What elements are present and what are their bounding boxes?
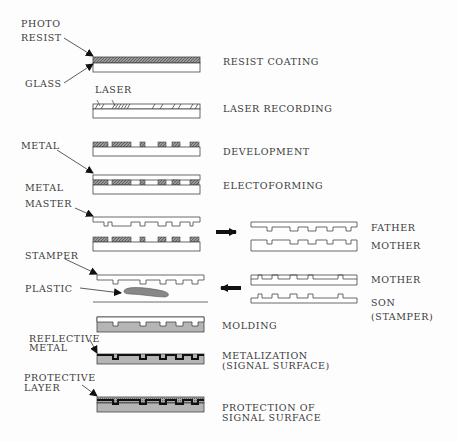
label-laser: LASER (95, 84, 132, 95)
father-diagram (251, 222, 357, 231)
label-resist: RESIST (21, 32, 62, 43)
development-diagram (93, 142, 200, 156)
resist-coating-diagram (64, 38, 200, 83)
label-metal-master-2: MASTER (25, 198, 72, 209)
label-son: SON (371, 297, 395, 308)
step-metalization-2: (SIGNAL SURFACE) (222, 361, 330, 371)
molding-diagram (97, 317, 204, 332)
label-mother-upper: MOTHER (371, 240, 421, 251)
label-reflective-2: METAL (29, 343, 68, 353)
label-metal-master-1: METAL (25, 182, 64, 193)
label-glass: GLASS (25, 78, 62, 89)
step-protection-2: SIGNAL SURFACE (222, 413, 321, 423)
mother-diagram-upper (251, 240, 357, 251)
protection-diagram (82, 385, 204, 412)
laser-recording-diagram (93, 100, 200, 118)
molding-press-diagram (65, 259, 208, 302)
step-resist-coating: RESIST COATING (223, 56, 319, 67)
step-laser-recording: LASER RECORDING (223, 103, 332, 114)
son-stamper-diagram (251, 294, 357, 303)
metal-master-diagram (75, 208, 200, 251)
label-plastic: PLASTIC (25, 283, 73, 294)
label-protective-2: LAYER (24, 383, 60, 393)
mother-diagram-lower (251, 275, 357, 285)
step-electroforming: ELECTOFORMING (223, 180, 323, 191)
label-son-stamper: (STAMPER) (371, 311, 433, 322)
metalization-diagram (90, 340, 204, 364)
label-photo: PHOTO (21, 18, 61, 29)
step-molding: MOLDING (222, 320, 277, 331)
label-mother-lower: MOTHER (371, 274, 421, 285)
electroforming-diagram (57, 150, 200, 194)
label-stamper: STAMPER (25, 250, 79, 261)
label-father: FATHER (371, 222, 415, 233)
step-development: DEVELOPMENT (223, 146, 310, 157)
label-metal: METAL (21, 140, 60, 151)
